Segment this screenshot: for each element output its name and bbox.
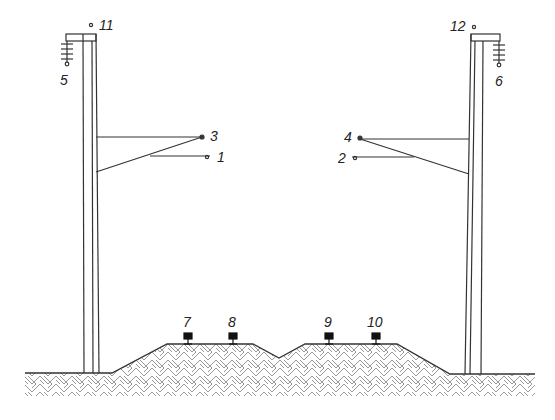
rail-10 [372,333,380,344]
label-9: 9 [324,315,332,329]
right-pole-inner-line [470,41,475,374]
label-12: 12 [450,19,466,33]
left-pole-outer-edge [83,34,84,373]
rail-8 [229,333,237,344]
right-pole-outer-edge [465,34,471,374]
left-insulator-point [65,62,69,66]
point-1 [205,155,208,158]
left-pole-inner-edge [96,34,99,373]
label-2: 2 [338,151,346,165]
label-3: 3 [210,129,218,143]
label-1: 1 [217,150,225,164]
right-pole-crossbar [471,34,500,41]
rail-9 [325,333,333,344]
label-8: 8 [228,315,236,329]
ground [25,344,535,396]
point-2 [353,156,356,159]
point-12 [472,25,475,28]
right-pole-right-edge [481,41,483,374]
right-insulator-point [497,63,501,67]
point-11 [89,23,92,26]
label-11: 11 [99,18,114,32]
label-6: 6 [495,74,503,88]
point-3 [200,135,204,139]
label-4: 4 [344,130,352,144]
rail-7 [184,333,192,344]
left-pole-inner-line [92,41,93,373]
ground-fill [25,344,535,396]
left-diagonal-brace [96,137,202,172]
label-10: 10 [367,315,383,329]
rails [184,333,380,344]
catenary-diagram [0,0,555,420]
left-pole-crossbar [66,34,96,41]
point-4 [358,136,362,140]
label-5: 5 [60,73,68,87]
label-7: 7 [183,315,191,329]
